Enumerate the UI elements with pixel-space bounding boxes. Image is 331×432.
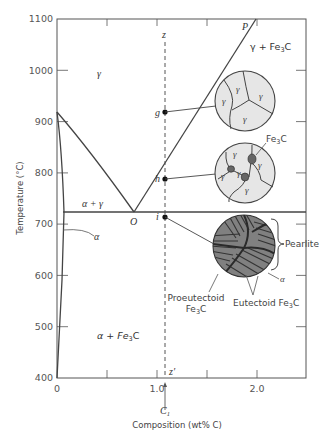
svg-text:γ: γ xyxy=(222,96,226,106)
microstructure-g: γ γ γ γ xyxy=(215,71,275,131)
svg-text:γ: γ xyxy=(259,91,263,101)
svg-text:γ: γ xyxy=(236,84,240,94)
pearlite-label: Pearlite xyxy=(285,239,319,249)
alpha-solvus xyxy=(57,112,64,378)
label-i: i xyxy=(156,211,159,222)
microstructure-h: γ γ γ γ γ xyxy=(215,143,275,203)
microstructure-i xyxy=(210,214,276,280)
label-z-prime: z′ xyxy=(168,366,176,377)
alpha-pointer-2 xyxy=(268,273,279,279)
y-tick-700: 700 xyxy=(35,218,53,229)
eutectoid-label: Eutectoid Fe3C xyxy=(233,298,299,310)
region-alpha-gamma: α + γ xyxy=(82,198,104,209)
svg-text:γ: γ xyxy=(237,168,241,178)
region-gamma: γ xyxy=(97,68,102,79)
x-tick-1: 1.0 xyxy=(149,383,164,394)
label-z: z xyxy=(161,29,166,40)
y-tick-900: 900 xyxy=(35,116,53,127)
label-g: g xyxy=(155,107,160,118)
y-tick-1000: 1000 xyxy=(29,65,53,76)
x-axis-title: Composition (wt% C) xyxy=(132,420,221,430)
fe3c-label: Fe3C xyxy=(266,134,287,146)
y-tick-1100: 1100 xyxy=(29,13,53,24)
svg-text:γ: γ xyxy=(245,185,249,195)
y-tick-400: 400 xyxy=(35,372,53,383)
alpha-pointer xyxy=(63,230,94,236)
connector-h xyxy=(165,174,216,179)
a3-boundary xyxy=(57,112,134,212)
y-tick-500: 500 xyxy=(35,321,53,332)
label-c1: C1 xyxy=(160,405,170,417)
proeutectoid-pointer xyxy=(209,274,218,292)
eutectoid-pointer-1 xyxy=(246,275,253,295)
eutectoid-pointer-2 xyxy=(253,276,258,295)
y-axis-title: Temperature (°C) xyxy=(15,161,25,235)
y-tick-600: 600 xyxy=(35,270,53,281)
svg-text:γ: γ xyxy=(233,149,237,159)
phase-diagram: 1100 1000 900 800 700 600 500 400 0 1.0 … xyxy=(0,0,331,432)
region-alpha-fe3c: α + Fe3C xyxy=(97,330,140,343)
svg-text:γ: γ xyxy=(221,171,225,181)
carbide-particle xyxy=(248,154,256,164)
proeutectoid-label-line2: Fe3C xyxy=(186,304,207,316)
region-alpha: α xyxy=(94,231,100,242)
connector-i xyxy=(165,217,214,244)
x-tick-0: 0 xyxy=(54,383,60,394)
svg-text:γ: γ xyxy=(243,114,247,124)
label-P: P xyxy=(241,21,248,32)
y-tick-800: 800 xyxy=(35,167,53,178)
proeutectoid-label-line1: Proeutectoid xyxy=(168,293,225,303)
x-tick-2: 2.0 xyxy=(249,383,264,394)
region-gamma-fe3c: γ + Fe3C xyxy=(250,41,292,54)
label-h: h xyxy=(155,173,160,184)
label-O: O xyxy=(130,216,137,227)
connector-g xyxy=(165,106,216,112)
svg-text:γ: γ xyxy=(258,160,262,170)
carbide-particle xyxy=(241,173,249,181)
carbide-particle xyxy=(228,166,235,172)
alpha-label: α xyxy=(280,274,285,284)
